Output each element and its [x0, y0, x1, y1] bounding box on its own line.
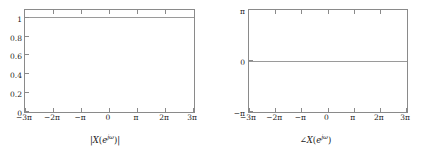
ytick-mark [25, 54, 29, 55]
ytick-mark [25, 73, 29, 74]
xtick-label: 3π [187, 113, 197, 122]
phase-caption: ∠X(ejω) [210, 133, 421, 145]
dtft-figure: −3π −2π −π 0 π 2π 3π 0 0.2 0.4 0.6 0.8 1… [0, 0, 421, 154]
xtick-mark-top [301, 10, 302, 14]
ytick-mark [249, 60, 253, 61]
ytick-label: 0.2 [2, 90, 22, 99]
phase-plot-area [248, 9, 408, 113]
xtick-mark [53, 108, 54, 112]
xtick-mark [137, 108, 138, 112]
xtick-mark [406, 108, 407, 112]
ytick-label: 0 [2, 109, 22, 118]
xtick-label: −2π [266, 113, 282, 122]
xtick-mark [109, 108, 110, 112]
ytick-label: 0.6 [2, 52, 22, 61]
xtick-mark-top [53, 10, 54, 14]
xtick-label: 3π [400, 113, 410, 122]
ytick-label: π [226, 7, 245, 16]
ytick-mark [249, 9, 253, 10]
magnitude-caption: |X(ejω)| [0, 133, 210, 145]
magnitude-caption-text: |X(ejω)| [90, 135, 120, 145]
magnitude-plot-area [24, 9, 195, 113]
ytick-mark [25, 92, 29, 93]
xtick-label: −2π [44, 113, 60, 122]
ytick-mark [25, 111, 29, 112]
xtick-mark-top [380, 10, 381, 14]
xtick-label: π [134, 113, 139, 122]
xtick-mark [165, 108, 166, 112]
ytick-label: 0.8 [2, 33, 22, 42]
xtick-mark-top [137, 10, 138, 14]
ytick-label: −π [226, 109, 245, 118]
ytick-label: 0.4 [2, 71, 22, 80]
magnitude-data-line [25, 17, 194, 18]
xtick-mark [193, 108, 194, 112]
xtick-mark-top [165, 10, 166, 14]
phase-caption-text: ∠X(ejω) [300, 135, 332, 145]
phase-data-line [249, 61, 407, 62]
ytick-label: 0 [226, 58, 245, 67]
xtick-mark [81, 108, 82, 112]
xtick-mark-top [328, 10, 329, 14]
xtick-mark-top [275, 10, 276, 14]
xtick-mark-top [81, 10, 82, 14]
xtick-mark [275, 108, 276, 112]
xtick-label: 2π [374, 113, 384, 122]
xtick-mark-top [109, 10, 110, 14]
ytick-mark [25, 17, 29, 18]
xtick-mark [354, 108, 355, 112]
xtick-mark [328, 108, 329, 112]
ytick-mark [25, 36, 29, 37]
xtick-mark [380, 108, 381, 112]
xtick-label: 2π [159, 113, 169, 122]
xtick-label: −π [74, 113, 85, 122]
xtick-label: −π [295, 113, 306, 122]
xtick-mark-top [354, 10, 355, 14]
xtick-label: 0 [324, 113, 329, 122]
xtick-label: π [350, 113, 355, 122]
ytick-mark [249, 111, 253, 112]
phase-panel: −3π −2π −π 0 π 2π 3π −π 0 π ∠X(ejω) [210, 0, 421, 154]
ytick-label: 1 [2, 14, 22, 23]
xtick-label: 0 [106, 113, 111, 122]
xtick-mark [301, 108, 302, 112]
magnitude-panel: −3π −2π −π 0 π 2π 3π 0 0.2 0.4 0.6 0.8 1… [0, 0, 210, 154]
